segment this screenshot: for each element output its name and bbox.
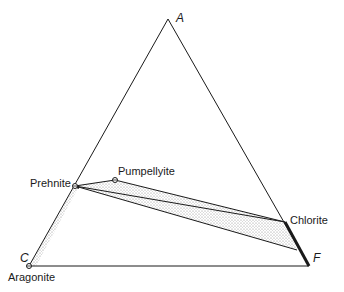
prehnite-marker [73, 184, 78, 189]
pumpellyite-marker [113, 178, 118, 183]
prehnite-aragonite-field [29, 186, 78, 266]
phase-label-prehnite: Prehnite [30, 178, 71, 189]
phase-label-chlorite: Chlorite [290, 215, 328, 226]
ternary-diagram [0, 0, 344, 292]
phase-label-aragonite: Aragonite [8, 272, 55, 283]
vertex-label-f: F [313, 252, 320, 264]
vertex-label-a: A [176, 12, 184, 24]
phase-label-pumpellyite: Pumpellyite [118, 166, 175, 177]
vertex-label-c: C [20, 252, 29, 264]
